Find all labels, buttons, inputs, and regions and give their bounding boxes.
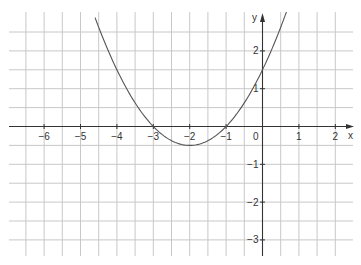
x-tick-label: 1 (296, 131, 302, 142)
x-tick-label: −5 (75, 131, 87, 142)
x-tick-label: −4 (111, 131, 123, 142)
y-tick-label: 2 (253, 45, 259, 56)
function-graph: x y 0 −6−5−4−3−2−11221−1−2−3 (0, 0, 361, 265)
x-axis-label: x (348, 130, 353, 141)
x-tick-label: −1 (220, 131, 232, 142)
y-tick-label: −1 (247, 159, 259, 170)
origin-label: 0 (253, 131, 259, 142)
x-axis-arrow-icon (346, 124, 354, 129)
y-tick-label: −3 (247, 234, 259, 245)
x-tick-label: −3 (148, 131, 160, 142)
y-axis-label: y (252, 12, 257, 23)
x-tick-label: 2 (333, 131, 339, 142)
x-tick-label: −2 (184, 131, 196, 142)
x-tick-label: −6 (38, 131, 50, 142)
y-tick-label: −2 (247, 197, 259, 208)
y-tick-label: 1 (253, 83, 259, 94)
axes: x y 0 (9, 12, 354, 256)
y-axis-arrow-icon (260, 13, 265, 22)
